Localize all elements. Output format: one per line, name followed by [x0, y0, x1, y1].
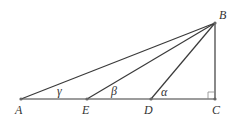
point-A — [19, 97, 22, 100]
point-B — [213, 21, 216, 24]
label-E: E — [81, 103, 90, 117]
label-D: D — [143, 103, 153, 117]
point-D — [149, 97, 152, 100]
label-C: C — [212, 103, 221, 117]
angle-alpha-label: α — [161, 85, 168, 99]
label-A: A — [14, 103, 23, 117]
point-C — [213, 97, 216, 100]
angle-gamma-label: γ — [57, 84, 62, 98]
segment-AB — [21, 23, 215, 99]
point-E — [85, 97, 88, 100]
angle-beta-label: β — [110, 84, 117, 98]
triangle-diagram: A E D C B γ β α — [0, 0, 233, 123]
segment-EB — [87, 23, 215, 99]
label-B: B — [219, 8, 227, 22]
